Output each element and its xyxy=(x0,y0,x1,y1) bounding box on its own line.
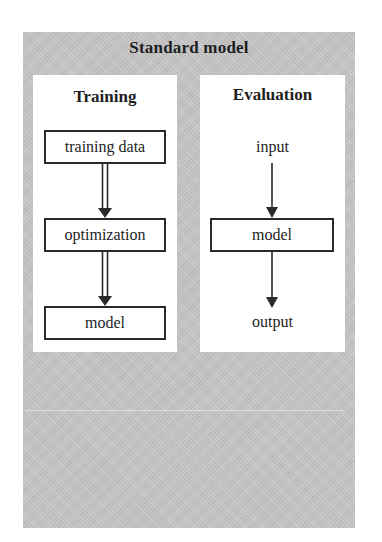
standard-model-container: Standard model Training training data op… xyxy=(23,32,355,528)
training-panel: Training training data optimization mode… xyxy=(33,75,177,352)
diagram-title: Standard model xyxy=(23,38,355,58)
training-double-arrows xyxy=(33,75,177,352)
evaluation-panel: Evaluation input model output xyxy=(200,75,345,352)
double-arrow-head-icon xyxy=(98,208,112,306)
scan-artifact-line xyxy=(25,410,343,411)
evaluation-arrows xyxy=(200,75,345,352)
